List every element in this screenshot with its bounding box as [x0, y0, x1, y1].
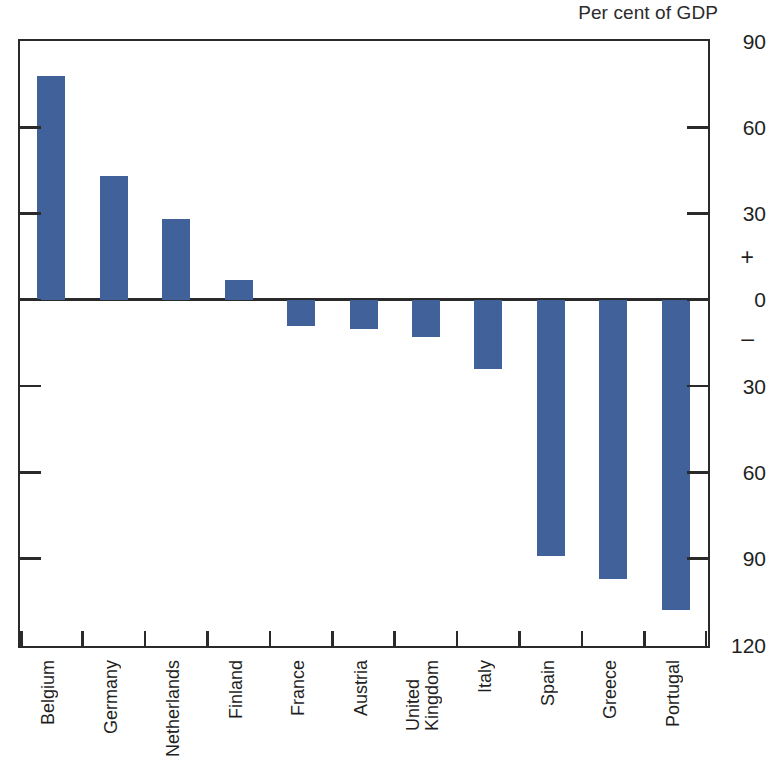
bar-belgium: [37, 76, 65, 300]
y-axis-plus-sign: +: [724, 244, 754, 271]
y-tick-right-30: [687, 212, 708, 215]
y-tick-right--30: [687, 385, 708, 388]
y-axis-label--30: 30: [716, 375, 766, 399]
x-axis-label-austria: Austria: [352, 660, 371, 716]
bar-united-kingdom: [412, 300, 440, 337]
y-tick-left--30: [20, 385, 41, 388]
y-tick-left-60: [20, 126, 41, 129]
x-tick-4: [269, 631, 272, 646]
x-tick-3: [206, 631, 209, 646]
x-tick-1: [81, 631, 84, 646]
chart-figure: Per cent of GDP 9060300306090120+–Belgiu…: [0, 0, 774, 778]
x-axis-label-greece: Greece: [601, 660, 620, 719]
bar-greece: [599, 300, 627, 579]
bar-austria: [350, 300, 378, 329]
bar-italy: [474, 300, 502, 369]
y-axis-label-30: 30: [716, 202, 766, 226]
x-tick-2: [144, 631, 147, 646]
y-axis-label-90: 90: [716, 30, 766, 54]
bar-finland: [225, 280, 253, 300]
bar-portugal: [662, 300, 690, 611]
y-tick-left-0: [20, 299, 41, 302]
x-tick-0: [20, 631, 23, 646]
x-tick-6: [393, 631, 396, 646]
bar-spain: [537, 300, 565, 556]
x-axis-label-spain: Spain: [539, 660, 558, 706]
x-axis-label-belgium: Belgium: [39, 660, 58, 725]
x-axis-label-netherlands: Netherlands: [164, 660, 183, 757]
y-tick-right--60: [687, 471, 708, 474]
y-axis-label-0: 0: [716, 288, 766, 312]
x-tick-9: [581, 631, 584, 646]
y-tick-left-30: [20, 212, 41, 215]
y-axis-minus-sign: –: [724, 324, 754, 351]
x-axis-label-italy: Italy: [476, 660, 495, 693]
x-axis-label-france: France: [289, 660, 308, 716]
y-tick-left--60: [20, 471, 41, 474]
bar-germany: [100, 176, 128, 300]
bar-france: [287, 300, 315, 326]
plot-frame: [18, 39, 710, 648]
x-axis-label-germany: Germany: [102, 660, 121, 734]
y-axis-label--60: 60: [716, 461, 766, 485]
x-axis-label-finland: Finland: [227, 660, 246, 719]
y-tick-right-0: [687, 299, 708, 302]
x-tick-11: [705, 631, 708, 646]
y-tick-right-60: [687, 126, 708, 129]
x-tick-7: [456, 631, 459, 646]
x-tick-8: [518, 631, 521, 646]
x-axis-label-portugal: Portugal: [664, 660, 683, 727]
bar-netherlands: [162, 219, 190, 300]
chart-unit-caption: Per cent of GDP: [578, 2, 718, 24]
y-axis-label--90: 90: [716, 547, 766, 571]
x-tick-5: [331, 631, 334, 646]
x-axis-label-united-kingdom: United Kingdom: [404, 660, 442, 731]
y-tick-left--90: [20, 557, 41, 560]
x-tick-10: [643, 631, 646, 646]
y-axis-label-60: 60: [716, 116, 766, 140]
y-tick-right--90: [687, 557, 708, 560]
plot-area: [20, 41, 708, 646]
y-axis-label--120: 120: [716, 634, 766, 658]
